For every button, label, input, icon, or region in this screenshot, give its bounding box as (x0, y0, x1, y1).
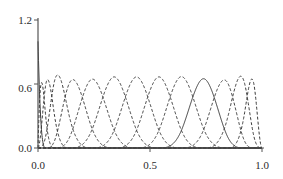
x-tick-label-3: 1.0 (248, 159, 276, 171)
y-tick-label-3: 0.0 (6, 142, 32, 154)
bspline-basis-chart: 1.2 0.6 0.0 0.0 0.5 1.0 (0, 0, 283, 179)
x-tick-label-1: 0.0 (24, 159, 52, 171)
plot-area (0, 0, 283, 179)
x-tick-label-2: 0.5 (136, 159, 164, 171)
curve-b3 (38, 75, 262, 148)
y-tick-label-1: 1.2 (6, 14, 32, 26)
curve-b12 (38, 76, 262, 148)
y-tick-label-2: 0.6 (6, 82, 32, 94)
curves-group (38, 41, 262, 148)
